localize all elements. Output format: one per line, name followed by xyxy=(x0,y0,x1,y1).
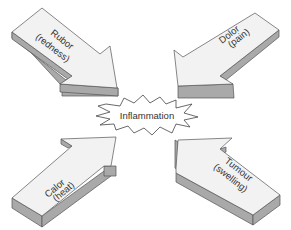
arrow-dolor: Dolor (pain) xyxy=(174,13,279,98)
arrow-tumour: Tumour (swelling) xyxy=(175,138,280,225)
center-label: Inflammation xyxy=(120,110,174,121)
inflammation-diagram: Rubor (redness) Dolor (pain) Calor (heat… xyxy=(0,0,291,230)
arrow-rubor: Rubor (redness) xyxy=(12,8,118,96)
inflammation-burst: Inflammation xyxy=(96,95,198,135)
arrow-calor: Calor (heat) xyxy=(12,137,116,227)
